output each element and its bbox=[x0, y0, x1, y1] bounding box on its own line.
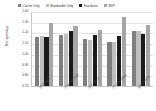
bar bbox=[35, 37, 39, 86]
bar bbox=[107, 42, 111, 86]
legend-label-fairshare: Fairshare bbox=[84, 4, 98, 8]
bar bbox=[64, 34, 68, 87]
legend-item-cache-only: Cache Only bbox=[18, 4, 40, 8]
y-tick-label: 0.70 bbox=[22, 85, 29, 88]
bar bbox=[112, 42, 116, 86]
bar bbox=[132, 31, 136, 86]
y-tick-label: 1.30 bbox=[22, 21, 29, 24]
legend-item-fairshare: Fairshare bbox=[79, 4, 97, 8]
bar-chart: Cache Only Bandwidth Only Fairshare SRP … bbox=[0, 0, 156, 111]
legend-swatch-cache-only bbox=[18, 4, 21, 7]
legend-label-srp: SRP bbox=[108, 4, 115, 8]
y-tick-label: 1.00 bbox=[22, 53, 29, 56]
y-tick-label: 0.80 bbox=[22, 75, 29, 78]
chart-legend: Cache Only Bandwidth Only Fairshare SRP bbox=[18, 1, 152, 10]
bar bbox=[136, 31, 140, 86]
legend-item-bandwidth-only: Bandwidth Only bbox=[46, 4, 74, 8]
bar bbox=[40, 36, 44, 86]
y-axis-title: Net speedup bbox=[5, 16, 9, 56]
legend-label-bandwidth-only: Bandwidth Only bbox=[50, 4, 73, 8]
legend-label-cache-only: Cache Only bbox=[23, 4, 40, 8]
y-tick-label: 0.90 bbox=[22, 64, 29, 67]
bar bbox=[83, 39, 87, 86]
x-axis-ticks: (fft,bzip2)(equake,mcf)(art,swim)(mesa,l… bbox=[31, 87, 153, 111]
legend-swatch-fairshare bbox=[79, 4, 82, 7]
legend-item-srp: SRP bbox=[104, 4, 115, 8]
y-tick-label: 1.10 bbox=[22, 42, 29, 45]
y-axis-ticks: 1.401.301.201.101.000.900.800.70 bbox=[14, 12, 30, 87]
y-tick-label: 1.20 bbox=[22, 32, 29, 35]
y-tick-label: 1.40 bbox=[22, 10, 29, 13]
legend-swatch-bandwidth-only bbox=[46, 4, 49, 7]
bar bbox=[88, 40, 92, 86]
bar bbox=[59, 35, 63, 86]
legend-swatch-srp bbox=[104, 4, 107, 7]
